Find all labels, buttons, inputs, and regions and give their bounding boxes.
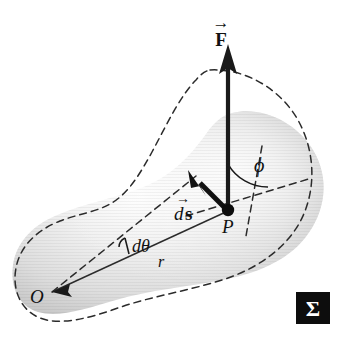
dtheta-angle-label: dθ: [132, 236, 150, 256]
sigma-badge: Σ: [296, 292, 330, 324]
physics-diagram-figure: → F → d s ϕ dθ r O P Σ: [0, 0, 341, 344]
sigma-badge-symbol: Σ: [306, 296, 320, 321]
point-p-label: P: [221, 216, 234, 237]
ds-vector-label-s: s: [185, 203, 192, 224]
rigid-body-shape: [0, 0, 341, 344]
diagram-canvas: → F → d s ϕ dθ r O P Σ: [0, 0, 341, 344]
point-p-marker: [222, 204, 234, 216]
origin-label: O: [30, 286, 44, 307]
force-vector-label: F: [215, 29, 227, 50]
phi-angle-label: ϕ: [254, 154, 264, 177]
ds-vector-label-d: d: [174, 203, 184, 224]
radius-label: r: [158, 253, 165, 270]
